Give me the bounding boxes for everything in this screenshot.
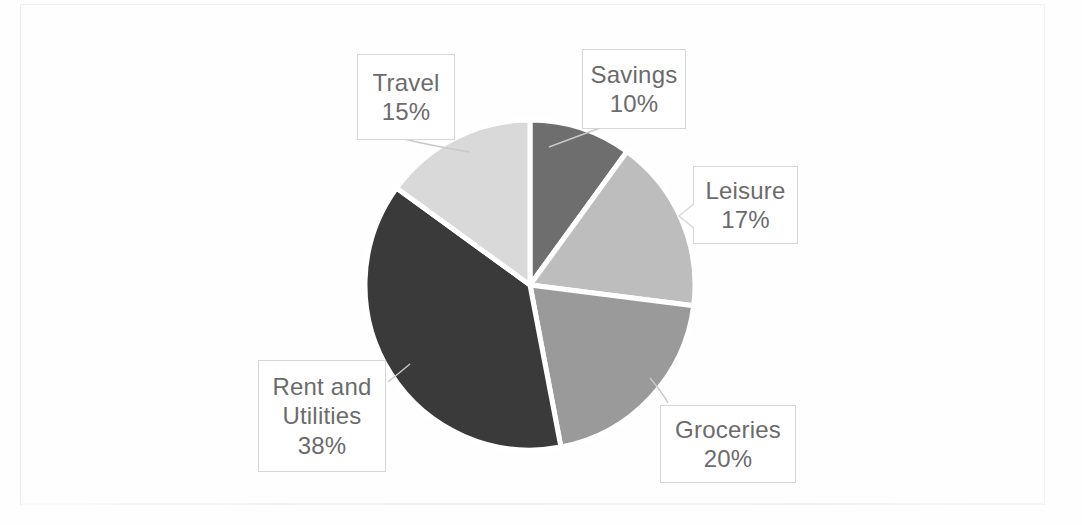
callout-groceries[interactable]: Groceries 20% bbox=[660, 405, 796, 483]
callout-leisure-value: 17% bbox=[721, 205, 770, 234]
callout-rent-name-line2: Utilities bbox=[282, 401, 361, 430]
chart-page: Travel 15% Savings 10% Leisure 17% Groce… bbox=[0, 0, 1082, 525]
callout-groceries-value: 20% bbox=[704, 444, 753, 473]
callout-groceries-name: Groceries bbox=[675, 415, 781, 444]
pie-chart-svg bbox=[0, 0, 1082, 525]
callout-rent-name-line1: Rent and bbox=[272, 372, 371, 401]
callout-savings[interactable]: Savings 10% bbox=[582, 49, 686, 129]
pie-chart: Travel 15% Savings 10% Leisure 17% Groce… bbox=[0, 0, 1082, 525]
callout-travel-name: Travel bbox=[373, 68, 440, 97]
callout-leisure[interactable]: Leisure 17% bbox=[693, 166, 798, 244]
callout-rent-value: 38% bbox=[298, 431, 347, 460]
callout-savings-value: 10% bbox=[610, 89, 659, 118]
callout-leisure-name: Leisure bbox=[705, 176, 785, 205]
callout-rent-and-utilities[interactable]: Rent and Utilities 38% bbox=[258, 360, 386, 472]
callout-travel-value: 15% bbox=[382, 97, 431, 126]
callout-savings-name: Savings bbox=[591, 60, 678, 89]
callout-travel[interactable]: Travel 15% bbox=[357, 54, 455, 140]
callout-leisure-tail-fill bbox=[680, 203, 696, 229]
